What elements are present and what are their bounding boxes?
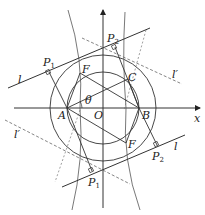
label-lprime-left: l′	[14, 128, 21, 141]
label-F-top: F	[81, 63, 90, 76]
right-angle-P1-bottom	[88, 167, 93, 172]
label-F-bottom: F	[127, 138, 136, 151]
label-l-top: l	[18, 73, 22, 86]
line-lprime-left	[5, 120, 130, 184]
label-x: x	[194, 112, 201, 125]
label-lprime-right: l′	[172, 68, 179, 81]
label-P2-top: P2	[106, 32, 119, 46]
label-O: O	[94, 109, 103, 122]
label-theta: θ	[85, 94, 92, 107]
label-P1-top: P1	[42, 56, 55, 70]
label-C: C	[128, 71, 137, 84]
geometry-diagram: l P1 P2 F C l′ θ A O B x l′ F l P2 P1	[0, 0, 205, 215]
label-l-bottom: l	[174, 140, 178, 153]
perp-A-P1-top	[49, 72, 67, 108]
label-B: B	[141, 109, 150, 122]
right-angle-P2-bottom	[153, 141, 158, 146]
label-A: A	[57, 109, 66, 122]
label-P1-bottom: P1	[87, 176, 100, 190]
label-P2-bottom: P2	[151, 150, 164, 164]
